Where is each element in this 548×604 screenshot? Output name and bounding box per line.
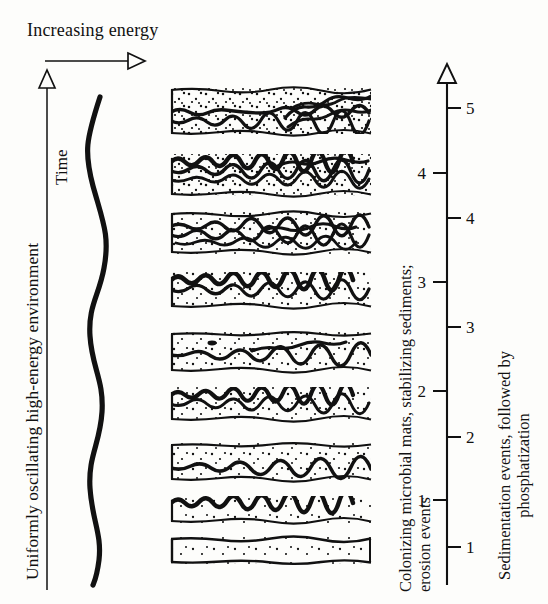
sed-tick-label-3: 3 xyxy=(466,318,475,337)
time-arrow-icon xyxy=(39,70,55,590)
mat-tick-label-1: 1 xyxy=(418,491,427,510)
mat-tick-label-2: 2 xyxy=(418,382,427,401)
mat-tick-label-3: 3 xyxy=(418,273,427,292)
sed-tick-label-2: 2 xyxy=(466,428,475,447)
sediment-bed-1 xyxy=(171,536,371,564)
sed-tick-label-5: 5 xyxy=(466,99,475,118)
sediment-bed-2 xyxy=(171,491,371,524)
diagram-vector-layer: 4 3 2 1 5 4 3 2 1 xyxy=(0,0,548,604)
sediment-bed-8 xyxy=(171,150,371,196)
mat-tick-label-4: 4 xyxy=(418,164,427,183)
sediment-bed-3 xyxy=(171,443,371,482)
energy-oscillation-curve xyxy=(88,97,107,585)
sed-tick-label-4: 4 xyxy=(466,209,475,228)
energy-arrow-icon xyxy=(45,53,145,69)
sediment-bed-7 xyxy=(171,211,371,254)
sediment-bed-6 xyxy=(171,268,371,308)
sedimentation-event-ticks: 5 4 3 2 1 xyxy=(447,99,475,557)
sed-tick-label-1: 1 xyxy=(466,538,475,557)
sediment-bed-9 xyxy=(171,87,371,135)
right-axis xyxy=(438,64,456,585)
sediment-bed-5 xyxy=(171,332,371,373)
mat-event-ticks: 4 3 2 1 xyxy=(418,164,448,510)
figure-root: Increasing energy Uniformly oscillating … xyxy=(0,0,548,604)
sediment-bed-4 xyxy=(171,384,371,422)
